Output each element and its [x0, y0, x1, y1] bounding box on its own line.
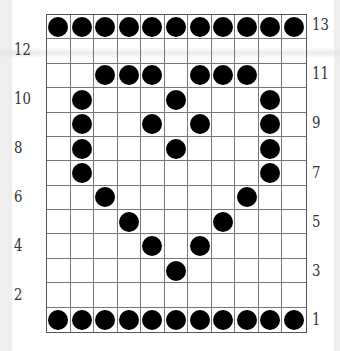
- dot-icon: [72, 310, 92, 330]
- grid-cell: [71, 161, 95, 185]
- dot-icon: [190, 310, 210, 330]
- dot-icon: [72, 163, 92, 183]
- grid-cell: [94, 137, 118, 161]
- dot-icon: [72, 139, 92, 159]
- grid-cell: [235, 259, 259, 283]
- row-label-right: 13: [312, 14, 329, 34]
- dot-icon: [260, 90, 280, 110]
- row-label-left: 2: [14, 284, 22, 304]
- grid-cell: [188, 283, 212, 307]
- dot-icon: [119, 310, 139, 330]
- grid-cell: [141, 283, 165, 307]
- grid-cell: [71, 39, 95, 63]
- grid-cell: [188, 308, 212, 332]
- grid-cell: [165, 88, 189, 112]
- grid-cell: [188, 113, 212, 137]
- grid-cell: [47, 186, 71, 210]
- grid-cell: [94, 283, 118, 307]
- dot-icon: [142, 17, 162, 37]
- grid-cell: [94, 161, 118, 185]
- grid-cell: [141, 308, 165, 332]
- dot-icon: [260, 114, 280, 134]
- grid-cell: [94, 64, 118, 88]
- dot-icon: [142, 236, 162, 256]
- grid-cell: [118, 210, 142, 234]
- grid-cell: [94, 259, 118, 283]
- dot-icon: [48, 17, 68, 37]
- dot-icon: [166, 139, 186, 159]
- grid-cell: [141, 259, 165, 283]
- dot-icon: [260, 310, 280, 330]
- grid-cell: [165, 234, 189, 258]
- grid-cell: [188, 88, 212, 112]
- grid-cell: [235, 113, 259, 137]
- grid-cell: [259, 137, 283, 161]
- dot-icon: [260, 139, 280, 159]
- grid-cell: [71, 64, 95, 88]
- grid-cell: [282, 186, 306, 210]
- grid-cell: [47, 64, 71, 88]
- grid-cell: [118, 161, 142, 185]
- grid-cell: [188, 186, 212, 210]
- dot-icon: [190, 65, 210, 85]
- grid-cell: [188, 64, 212, 88]
- grid-cell: [141, 113, 165, 137]
- grid-cell: [165, 210, 189, 234]
- dot-icon: [166, 310, 186, 330]
- dot-icon: [190, 17, 210, 37]
- dot-icon: [190, 236, 210, 256]
- grid-cell: [141, 39, 165, 63]
- grid-cell: [165, 186, 189, 210]
- dot-icon: [95, 187, 115, 207]
- grid-cell: [259, 186, 283, 210]
- dot-icon: [284, 310, 304, 330]
- grid-cell: [259, 15, 283, 39]
- grid-cell: [212, 113, 236, 137]
- grid-cell: [259, 113, 283, 137]
- grid-cell: [188, 39, 212, 63]
- dot-icon: [72, 114, 92, 134]
- dot-icon: [166, 17, 186, 37]
- grid-cell: [118, 64, 142, 88]
- grid-cell: [94, 15, 118, 39]
- dot-icon: [119, 212, 139, 232]
- grid-cell: [118, 137, 142, 161]
- grid-cell: [235, 137, 259, 161]
- grid-cell: [94, 308, 118, 332]
- grid-cell: [188, 210, 212, 234]
- grid-cell: [141, 64, 165, 88]
- grid-cell: [282, 64, 306, 88]
- grid-cell: [71, 137, 95, 161]
- row-label-left: 10: [14, 88, 31, 108]
- grid-cell: [47, 259, 71, 283]
- grid-cell: [235, 64, 259, 88]
- grid-cell: [165, 137, 189, 161]
- grid-cell: [282, 88, 306, 112]
- grid-cell: [188, 15, 212, 39]
- grid-cell: [71, 259, 95, 283]
- grid-cell: [212, 283, 236, 307]
- grid-cell: [259, 234, 283, 258]
- grid-cell: [47, 137, 71, 161]
- grid-cell: [165, 64, 189, 88]
- grid-cell: [235, 210, 259, 234]
- grid-cell: [282, 39, 306, 63]
- grid-cell: [47, 88, 71, 112]
- grid-cell: [259, 259, 283, 283]
- grid-cell: [47, 39, 71, 63]
- grid-cell: [94, 234, 118, 258]
- grid-cell: [212, 137, 236, 161]
- grid-cell: [165, 15, 189, 39]
- grid-cell: [188, 259, 212, 283]
- row-label-right: 9: [312, 112, 320, 132]
- grid-cell: [141, 186, 165, 210]
- row-label-left: 8: [14, 137, 22, 157]
- dot-icon: [260, 163, 280, 183]
- row-label-right: 3: [312, 260, 320, 280]
- grid-cell: [141, 161, 165, 185]
- row-label-left: 12: [14, 39, 31, 59]
- row-label-right: 11: [312, 63, 329, 83]
- row-label-right: 7: [312, 162, 320, 182]
- grid-cell: [71, 88, 95, 112]
- grid-cell: [188, 161, 212, 185]
